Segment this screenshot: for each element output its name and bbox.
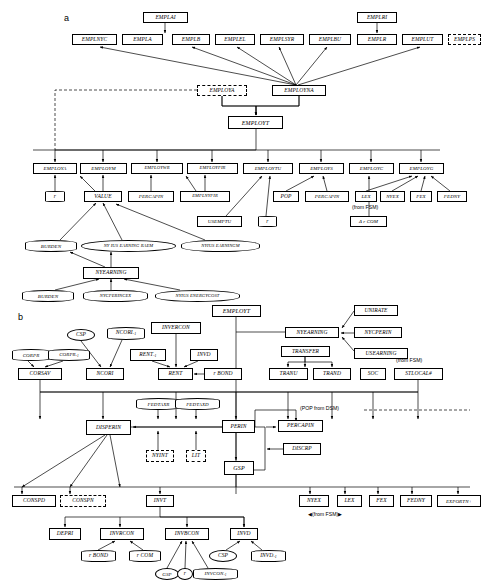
node-invd-lag-label: INVD-1 <box>260 553 277 560</box>
node-ncori-lag[interactable]: NCORI-1 <box>107 327 145 340</box>
node-emplps[interactable]: EMPLPS <box>448 34 481 45</box>
node-emplr[interactable]: EMPLR <box>357 34 397 45</box>
node-fedny-1[interactable]: FEDNY <box>437 191 467 202</box>
node-r-small[interactable]: r <box>177 568 193 580</box>
node-invcon-lag[interactable]: INVCON-1 <box>193 568 238 580</box>
node-nycperincex[interactable]: NYCPERINCEX <box>83 290 148 302</box>
node-nyius-earningm[interactable]: NYIUS EARNINGM <box>181 240 260 252</box>
figure-canvas: a EMPLAI EMPLNYC EMPLA EMPLB EMPLEL EMPL… <box>0 0 482 584</box>
node-nyearning[interactable]: NYEARNING <box>83 267 139 279</box>
node-lex-1[interactable]: LEX <box>355 191 377 202</box>
panel-b-letter: b <box>18 312 23 322</box>
node-employm[interactable]: EMPLOYM <box>80 163 127 174</box>
node-invbcon[interactable]: INVBCON <box>165 528 209 540</box>
node-gsp-small[interactable]: GSP <box>155 568 179 580</box>
node-nycperin[interactable]: NYCPERIN <box>354 327 402 338</box>
panel-a-letter: a <box>64 13 69 23</box>
node-corsav[interactable]: CORSAV <box>18 368 62 380</box>
node-corpr[interactable]: CORPR <box>12 349 50 361</box>
node-emplsyr[interactable]: EMPLSYR <box>260 34 304 45</box>
node-burden-1[interactable]: BURDEN <box>25 240 77 252</box>
node-corpr-lag[interactable]: CORPR-1 <box>48 349 90 361</box>
node-employa-2[interactable]: EMPLOYA <box>33 163 77 174</box>
node-fedtaxd[interactable]: FEDTAXD <box>175 398 220 410</box>
node-employc[interactable]: EMPLOYC <box>349 163 394 174</box>
node-disperin[interactable]: DISPERIN <box>86 420 131 435</box>
node-fex-1[interactable]: FEX <box>410 191 432 202</box>
node-tranu[interactable]: TRANU <box>269 368 308 380</box>
node-trand[interactable]: TRAND <box>313 368 351 380</box>
node-nyex-1[interactable]: NYEX <box>380 191 405 202</box>
node-invd-b[interactable]: INVD <box>230 528 258 540</box>
node-corpr-lag-label: CORPR-1 <box>59 352 79 358</box>
node-gsp-b[interactable]: GSP <box>224 461 254 475</box>
node-invd-top[interactable]: INVD <box>190 349 218 361</box>
node-ncori[interactable]: NCORI <box>86 368 124 380</box>
node-lit[interactable]: LIT <box>186 450 206 462</box>
node-burden-2[interactable]: BURDEN <box>22 290 74 302</box>
node-stlocal[interactable]: STLOCAL# <box>394 368 443 380</box>
node-emplnyc[interactable]: EMPLNYC <box>72 34 117 45</box>
node-rbond-1[interactable]: r BOND <box>204 368 242 380</box>
node-percapin-2[interactable]: PERCAPIN <box>305 191 349 202</box>
node-nyex-b[interactable]: NYEX <box>299 495 329 507</box>
node-transfer[interactable]: TRANSFER <box>281 346 330 357</box>
node-invt[interactable]: INVT <box>146 495 174 507</box>
node-delta-r-com[interactable]: Δ r COM <box>350 216 387 227</box>
node-nyint[interactable]: NYINT <box>146 450 174 462</box>
node-employna[interactable]: EMPLOYNA <box>272 85 326 96</box>
node-employg[interactable]: EMPLOYG <box>399 163 444 174</box>
node-fex-b[interactable]: FEX <box>369 495 394 507</box>
node-emplut[interactable]: EMPLUT <box>402 34 443 45</box>
node-perin[interactable]: PERIN <box>222 420 255 433</box>
node-conspn[interactable]: CONSPN <box>60 495 106 507</box>
node-percapin-1[interactable]: PERCAPIN <box>128 191 174 202</box>
node-exportn-plus[interactable]: EXPORTN+ <box>437 495 481 507</box>
node-emplel[interactable]: EMPLEL <box>215 34 255 45</box>
node-emplbu[interactable]: EMPLBU <box>309 34 351 45</box>
node-emplnyfir[interactable]: EMPLNYFIR <box>180 191 230 202</box>
node-rbond-2[interactable]: r BOND <box>81 550 116 562</box>
node-emplai[interactable]: EMPLAI <box>143 12 188 23</box>
node-unirate[interactable]: UNIRATE <box>354 305 398 316</box>
node-empla[interactable]: EMPLA <box>122 34 163 45</box>
node-depri[interactable]: DEPRI <box>49 528 81 540</box>
node-r-1[interactable]: r <box>45 191 65 202</box>
annotation-from-fsm-b2: ◀(from FSM)▶ <box>308 511 342 517</box>
node-usemptu[interactable]: USEMPTU <box>197 216 242 227</box>
node-invrcon[interactable]: INVRCON <box>100 528 144 540</box>
node-nyius-earning-raem[interactable]: NY IUS EARNING RAEM <box>81 240 176 252</box>
node-rent[interactable]: RENT <box>158 368 193 380</box>
node-value[interactable]: VALUE <box>84 191 122 202</box>
annotation-pop-from-dsm: (POP from DSM) <box>300 405 339 411</box>
node-employt-b[interactable]: EMPLOYT <box>212 305 261 317</box>
node-rent-lag[interactable]: RENT-1 <box>130 349 166 361</box>
node-r-2[interactable]: r <box>258 216 277 227</box>
node-fedny-b[interactable]: FEDNY <box>400 495 432 507</box>
node-employs[interactable]: EMPLOYS <box>299 163 344 174</box>
node-emplb[interactable]: EMPLB <box>172 34 210 45</box>
node-emplri[interactable]: EMPLRI <box>357 12 397 23</box>
node-pop[interactable]: POP <box>273 191 299 202</box>
node-employwr[interactable]: EMPLOYWR <box>131 163 183 174</box>
node-conspd[interactable]: CONSPD <box>12 495 56 507</box>
node-rcom[interactable]: r COM <box>129 550 161 562</box>
node-invd-lag[interactable]: INVD-1 <box>251 550 286 562</box>
node-ncori-lag-label: NCORI-1 <box>116 330 136 337</box>
node-csp-b2[interactable]: CSP <box>209 550 237 562</box>
node-invcon-lag-label: INVCON-1 <box>204 571 226 577</box>
node-rent-lag-label: RENT-1 <box>139 352 156 359</box>
node-csp-b[interactable]: CSP <box>67 329 95 341</box>
annotation-from-fsm-b1: (from FSM) <box>396 357 422 363</box>
node-lex-b[interactable]: LEX <box>337 495 362 507</box>
node-employtu[interactable]: EMPLOYTU <box>243 163 293 174</box>
node-nyius-energycost[interactable]: NYIUS ENERGYCOST <box>155 290 240 302</box>
node-employa[interactable]: EMPLOYA <box>197 85 247 96</box>
node-employfir[interactable]: EMPLOYFIR <box>187 163 238 174</box>
node-employt[interactable]: EMPLOYT <box>228 116 283 129</box>
node-invercon[interactable]: INVERCON <box>151 322 201 334</box>
node-nyearning-b[interactable]: NYEARNING <box>285 327 339 338</box>
node-percapin-b[interactable]: PERCAPIN <box>278 420 323 432</box>
node-discrp[interactable]: DISCRP <box>283 443 321 455</box>
node-soc[interactable]: SOC <box>360 368 386 380</box>
